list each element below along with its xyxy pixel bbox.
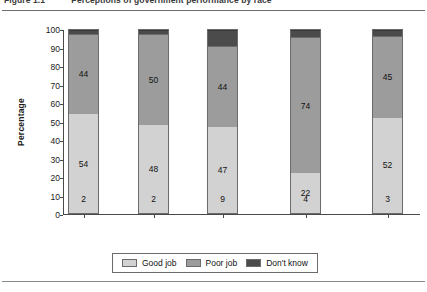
legend-swatch xyxy=(246,259,261,267)
bar-top-value-label: 9 xyxy=(199,194,246,204)
y-axis-tick-label: 0 xyxy=(36,211,60,220)
y-axis-tick-mark xyxy=(60,160,63,161)
x-axis-tick-mark xyxy=(223,215,224,218)
bar-segment-poor-job[interactable]: 74 xyxy=(291,37,320,172)
y-axis-line xyxy=(63,30,64,215)
legend-item[interactable]: Don't know xyxy=(246,258,308,268)
y-axis-tick-mark xyxy=(60,215,63,216)
legend-item[interactable]: Good job xyxy=(122,258,177,268)
x-axis-tick-mark xyxy=(388,215,389,218)
bar-segment-dont-know[interactable] xyxy=(291,30,320,37)
bar-segment-poor-job[interactable]: 45 xyxy=(373,36,402,118)
stacked-bar[interactable]: 5444 xyxy=(68,29,99,214)
x-axis-line xyxy=(63,214,420,215)
x-axis-tick-mark xyxy=(84,215,85,218)
bar-segment-dont-know[interactable] xyxy=(139,30,168,34)
stacked-bar[interactable]: 4744 xyxy=(207,29,238,214)
legend-label: Don't know xyxy=(266,258,308,268)
y-axis-tick-mark xyxy=(60,104,63,105)
legend-swatch xyxy=(186,259,201,267)
y-axis-tick-label: 40 xyxy=(36,137,60,146)
y-axis-tick-label: 20 xyxy=(36,174,60,183)
y-axis-tick-label: 70 xyxy=(36,82,60,91)
y-axis-tick-mark xyxy=(60,86,63,87)
y-axis-tick-mark xyxy=(60,49,63,50)
y-axis-tick-label: 60 xyxy=(36,100,60,109)
bar-segment-good-job[interactable]: 22 xyxy=(291,173,320,213)
bar-segment-dont-know[interactable] xyxy=(373,30,402,35)
y-axis-tick-label: 50 xyxy=(36,119,60,128)
legend-label: Good job xyxy=(142,258,177,268)
figure-caption-text: Perceptions of government performance by… xyxy=(45,0,272,5)
y-axis-tick-label: 90 xyxy=(36,45,60,54)
y-axis-tick-label: 80 xyxy=(36,63,60,72)
stacked-bar[interactable]: 2274 xyxy=(290,29,321,214)
legend-item[interactable]: Poor job xyxy=(186,258,238,268)
stacked-bar[interactable]: 5245 xyxy=(372,29,403,214)
y-axis-tick-label: 30 xyxy=(36,156,60,165)
bar-top-value-label: 2 xyxy=(60,194,107,204)
x-axis-tick-mark xyxy=(154,215,155,218)
bar-top-value-label: 4 xyxy=(282,194,329,204)
figure-caption-label: Figure 1.1 xyxy=(4,0,45,5)
bar-segment-dont-know[interactable] xyxy=(69,30,98,34)
bottom-divider xyxy=(2,281,425,282)
bar-segment-poor-job[interactable]: 50 xyxy=(139,34,168,126)
y-axis-title: Percentage xyxy=(16,82,26,162)
top-divider xyxy=(2,10,425,11)
y-axis-tick-mark xyxy=(60,141,63,142)
bar-segment-poor-job[interactable]: 44 xyxy=(208,46,237,127)
y-axis-tick-label: 10 xyxy=(36,193,60,202)
y-axis-tick-mark xyxy=(60,123,63,124)
chart-legend: Good jobPoor jobDon't know xyxy=(112,253,318,273)
y-axis-ticks: 0102030405060708090100 xyxy=(32,12,60,252)
y-axis-tick-mark xyxy=(60,67,63,68)
legend-label: Poor job xyxy=(206,258,238,268)
legend-swatch xyxy=(122,259,137,267)
y-axis-tick-label: 100 xyxy=(36,26,60,35)
bar-top-value-label: 2 xyxy=(130,194,177,204)
bar-segment-poor-job[interactable]: 44 xyxy=(69,34,98,115)
stacked-bar[interactable]: 4850 xyxy=(138,29,169,214)
x-axis-tick-mark xyxy=(306,215,307,218)
bar-top-value-label: 3 xyxy=(364,194,411,204)
stacked-bar-chart: Percentage 0102030405060708090100 54442B… xyxy=(0,12,427,252)
y-axis-tick-mark xyxy=(60,178,63,179)
y-axis-tick-mark xyxy=(60,30,63,31)
figure-caption: Figure 1.1Perceptions of government perf… xyxy=(4,0,423,7)
bar-segment-dont-know[interactable] xyxy=(208,30,237,46)
